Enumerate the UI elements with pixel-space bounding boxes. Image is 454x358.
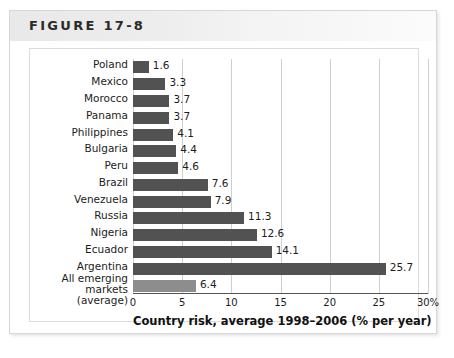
bar (133, 112, 169, 124)
bar-value-label: 7.6 (212, 177, 229, 189)
bar (133, 212, 244, 224)
chart-row: Philippines4.1 (133, 129, 428, 141)
category-label: Morocco (84, 93, 128, 104)
category-label: Mexico (91, 76, 128, 87)
bar (133, 129, 173, 141)
bar (133, 280, 196, 292)
figure-header-band: FIGURE 17-8 (10, 11, 436, 41)
chart-row: Argentina25.7 (133, 263, 428, 275)
category-label: All emerging markets (average) (32, 273, 128, 306)
x-tick-5: 5 (179, 297, 185, 308)
x-tick-25: 25 (372, 297, 385, 308)
bar-value-label: 4.1 (177, 127, 194, 139)
bar (133, 61, 149, 73)
x-tick-15: 15 (274, 297, 287, 308)
chart-row: Mexico3.3 (133, 78, 428, 90)
chart-row: Brazil7.6 (133, 179, 428, 191)
chart-row: Morocco3.7 (133, 95, 428, 107)
bar-value-label: 7.9 (215, 194, 232, 206)
chart-row: Ecuador14.1 (133, 246, 428, 258)
x-axis-title: Country risk, average 1998–2006 (% per y… (133, 314, 428, 328)
chart-row: Peru4.6 (133, 162, 428, 174)
bar-value-label: 12.6 (261, 227, 284, 239)
bar-value-label: 11.3 (248, 210, 271, 222)
bar-value-label: 6.4 (200, 278, 217, 290)
gridline-30 (428, 59, 429, 294)
category-label: Ecuador (85, 244, 128, 255)
chart-row: Russia11.3 (133, 212, 428, 224)
chart-plot-area: Poland1.6Mexico3.3Morocco3.7Panama3.7Phi… (133, 59, 428, 294)
category-label: Panama (86, 110, 128, 121)
bar (133, 179, 208, 191)
bar-value-label: 3.7 (173, 93, 190, 105)
chart-row: Bulgaria4.4 (133, 145, 428, 157)
x-axis-line (133, 293, 428, 294)
x-tick-10: 10 (225, 297, 238, 308)
x-tick-20: 20 (323, 297, 336, 308)
category-label: Argentina (77, 261, 128, 272)
category-label: Poland (93, 59, 128, 70)
bar (133, 162, 178, 174)
bar-value-label: 4.4 (180, 143, 197, 155)
bar (133, 95, 169, 107)
chart-row: Venezuela7.9 (133, 196, 428, 208)
bar (133, 263, 386, 275)
category-label: Philippines (71, 127, 128, 138)
bar (133, 246, 272, 258)
bar (133, 196, 211, 208)
bar (133, 229, 257, 241)
bar-value-label: 14.1 (276, 244, 299, 256)
bar-value-label: 3.3 (169, 76, 186, 88)
x-tick-0: 0 (130, 297, 136, 308)
category-label: Peru (105, 160, 128, 171)
category-label: Bulgaria (84, 143, 128, 154)
category-label: Nigeria (90, 227, 128, 238)
bar (133, 78, 165, 90)
x-tick-30: 30% (417, 297, 439, 308)
chart-row: All emerging markets (average)6.4 (133, 280, 428, 292)
chart-row: Panama3.7 (133, 112, 428, 124)
figure-panel: FIGURE 17-8 Poland1.6Mexico3.3Morocco3.7… (9, 10, 437, 334)
category-label: Russia (94, 210, 128, 221)
chart-row: Nigeria12.6 (133, 229, 428, 241)
category-label: Venezuela (74, 194, 128, 205)
figure-title: FIGURE 17-8 (29, 18, 145, 33)
chart-frame: Poland1.6Mexico3.3Morocco3.7Panama3.7Phi… (29, 48, 419, 322)
bar-value-label: 4.6 (182, 160, 199, 172)
category-label: Brazil (99, 177, 128, 188)
chart-row: Poland1.6 (133, 61, 428, 73)
bar-value-label: 3.7 (173, 110, 190, 122)
bar (133, 145, 176, 157)
bar-value-label: 25.7 (390, 261, 413, 273)
bar-value-label: 1.6 (153, 59, 170, 71)
